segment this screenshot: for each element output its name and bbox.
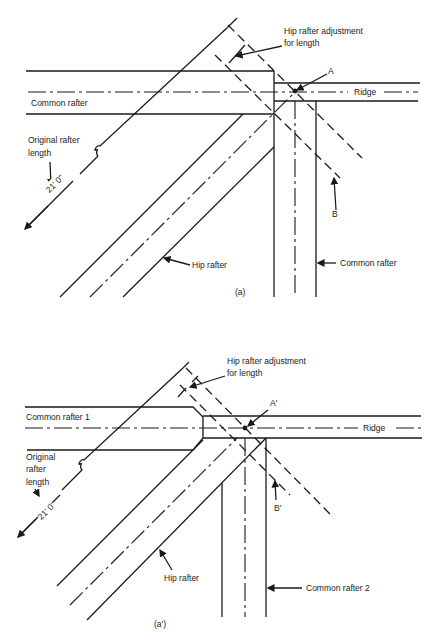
point-b-label: B: [332, 208, 338, 220]
hip-rafter-edge-1: [57, 440, 203, 586]
point-a-prime-label: A': [270, 397, 277, 409]
hip-rafter-label: Hip rafter: [192, 259, 227, 271]
original-length-label-line1: Original: [26, 451, 55, 463]
hip-rafter-label: Hip rafter: [164, 572, 199, 584]
point-b-prime-leader: [275, 481, 276, 500]
hip-rafter-centerline: [70, 438, 237, 605]
hip-rafter-leader: [160, 550, 172, 570]
ridge-label: Ridge: [353, 86, 377, 98]
original-length-line: [25, 27, 228, 229]
figure-b-caption: (a'): [154, 618, 166, 630]
point-a-prime-leader: [248, 410, 268, 426]
dimension-arrow: [18, 519, 36, 537]
adjustment-leader: [190, 376, 225, 387]
common-rafter-2-label: Common rafter 2: [306, 582, 370, 594]
hip-rafter-edge-2: [123, 147, 274, 297]
point-b-leader: [334, 178, 336, 210]
point-a-prime-marker: [243, 426, 248, 431]
original-length-leader: [35, 489, 39, 496]
original-length-label-line2: length: [28, 147, 51, 159]
dimension-arrow: [25, 206, 48, 229]
point-b-prime-label: B': [274, 502, 281, 514]
adjustment-label-line1: Hip rafter adjustment: [284, 25, 363, 37]
ridge-label: Ridge: [362, 422, 386, 434]
point-a-leader: [297, 74, 327, 90]
hip-rafter-leader: [164, 258, 190, 265]
tick: [183, 362, 189, 368]
adjustment-label-line2: for length: [227, 367, 262, 379]
common-rafter-1-label: Common rafter 1: [26, 411, 90, 423]
original-length-label-line1: Original rafter: [28, 134, 80, 146]
common-rafter-label: Common rafter: [31, 97, 88, 109]
tick: [228, 18, 237, 27]
tick: [178, 388, 186, 397]
common-rafter-right-label: Common rafter: [340, 257, 397, 269]
figure-a-caption: (a): [235, 286, 245, 298]
original-length-label-line2: rafter: [26, 463, 46, 475]
cut-line-outer: [186, 368, 330, 514]
adjustment-label-line2: for length: [284, 37, 319, 49]
cut-line-b: [215, 55, 340, 178]
point-a-label: A: [328, 65, 334, 77]
figure-a: [25, 18, 420, 297]
original-length-label-line3: length: [26, 476, 49, 488]
point-a-marker: [293, 89, 298, 94]
adjustment-label-line1: Hip rafter adjustment: [227, 355, 306, 367]
